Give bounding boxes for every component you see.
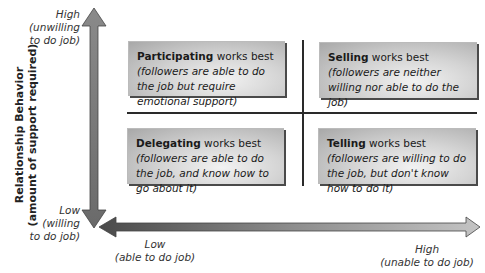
y-axis-arrow (82, 8, 106, 228)
x-low-text: Low (100, 238, 210, 251)
quadrant-style-name: Selling (328, 51, 368, 63)
y-low-sub2: to do job) (20, 230, 80, 243)
quadrant-participating: Participating works best (followers are … (128, 41, 285, 96)
quadrant-telling: Telling works best (followers are willin… (318, 128, 476, 184)
y-axis-title-line2: (amount of support required) (26, 40, 39, 230)
y-low-sub1: (willing (20, 217, 80, 230)
y-axis-high-label: High (unwilling to do job) (20, 8, 80, 47)
quadrant-style-name: Participating (137, 50, 213, 62)
quadrant-suffix: works best (368, 51, 428, 63)
y-high-sub1: (unwilling (20, 21, 80, 34)
quadrant-delegating: Delegating works best (followers are abl… (127, 128, 284, 184)
y-axis-title: Relationship Behavior (amount of support… (13, 40, 57, 230)
y-high-text: High (20, 8, 80, 21)
y-high-sub2: to do job) (20, 34, 80, 47)
quadrant-suffix: works best (213, 50, 273, 62)
y-axis-low-label: Low (willing to do job) (20, 204, 80, 243)
y-low-text: Low (20, 204, 80, 217)
y-axis-title-line1: Relationship Behavior (13, 40, 26, 230)
x-axis-arrow (99, 217, 480, 237)
x-axis-high-label: High (unable to do job) (372, 243, 482, 269)
quadrant-divider-horizontal (127, 112, 477, 114)
quadrant-selling: Selling works best (followers are neithe… (319, 42, 477, 98)
x-low-sub: (able to do job) (100, 251, 210, 264)
quadrant-suffix: works best (201, 137, 261, 149)
x-axis-low-label: Low (able to do job) (100, 238, 210, 264)
x-high-sub: (unable to do job) (372, 256, 482, 269)
quadrant-suffix: works best (366, 137, 426, 149)
quadrant-style-name: Delegating (136, 137, 201, 149)
quadrant-style-name: Telling (327, 137, 366, 149)
x-high-text: High (372, 243, 482, 256)
